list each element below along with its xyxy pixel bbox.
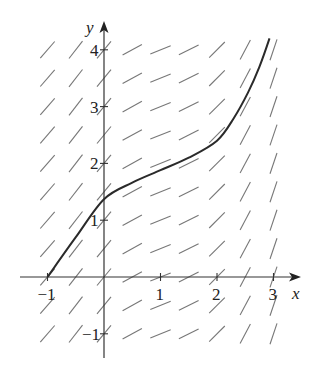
y-tick-label: 2 bbox=[90, 154, 99, 173]
direction-segment bbox=[270, 96, 277, 117]
direction-segment bbox=[69, 98, 83, 115]
direction-segment bbox=[179, 130, 199, 140]
y-tick-label: −1 bbox=[82, 325, 100, 344]
direction-segment bbox=[179, 329, 199, 339]
direction-segment bbox=[150, 216, 170, 224]
y-axis-label: y bbox=[84, 18, 94, 37]
direction-segment bbox=[240, 239, 250, 258]
direction-segment bbox=[69, 41, 83, 58]
direction-segment bbox=[240, 211, 250, 230]
x-axis-label: x bbox=[291, 284, 300, 303]
direction-segment bbox=[123, 187, 142, 198]
direction-segment bbox=[40, 42, 54, 59]
direction-segment bbox=[270, 68, 277, 89]
direction-segment bbox=[123, 215, 142, 226]
direction-segment bbox=[123, 158, 142, 169]
y-tick-label: 4 bbox=[90, 41, 99, 60]
direction-segment bbox=[150, 188, 170, 196]
direction-segment bbox=[270, 210, 277, 231]
direction-segment bbox=[40, 98, 54, 115]
direction-segment bbox=[150, 103, 170, 111]
direction-segment bbox=[40, 240, 54, 257]
direction-segment bbox=[40, 326, 54, 343]
x-tick-label: 1 bbox=[156, 285, 165, 304]
direction-segment bbox=[270, 153, 277, 174]
direction-segment bbox=[240, 154, 250, 173]
direction-segment bbox=[40, 155, 54, 172]
x-tick-label: 2 bbox=[212, 285, 221, 304]
direction-segment bbox=[209, 99, 225, 115]
direction-segment bbox=[240, 125, 250, 144]
direction-segment bbox=[69, 126, 83, 143]
direction-segment bbox=[240, 40, 250, 59]
direction-segment bbox=[69, 212, 83, 229]
direction-segment bbox=[69, 155, 83, 172]
x-tick-label: −1 bbox=[38, 285, 56, 304]
direction-segment bbox=[179, 73, 199, 83]
direction-segment bbox=[240, 324, 250, 343]
direction-segment bbox=[69, 70, 83, 87]
direction-segment bbox=[209, 70, 225, 86]
direction-segment bbox=[123, 329, 142, 340]
direction-segment bbox=[150, 131, 170, 139]
direction-segment bbox=[240, 296, 250, 315]
direction-segment bbox=[123, 101, 142, 112]
direction-segment bbox=[179, 187, 199, 197]
direction-segment bbox=[240, 69, 250, 88]
direction-segment bbox=[40, 70, 54, 87]
direction-segment bbox=[123, 45, 142, 56]
direction-segment bbox=[150, 330, 170, 338]
direction-segment bbox=[150, 46, 170, 54]
direction-segment bbox=[123, 130, 142, 141]
direction-segment bbox=[270, 323, 277, 344]
direction-segment bbox=[179, 215, 199, 225]
direction-segment bbox=[69, 325, 83, 342]
direction-segment bbox=[69, 297, 83, 314]
direction-segment bbox=[179, 244, 199, 254]
axes bbox=[20, 21, 301, 358]
direction-segment bbox=[209, 184, 225, 200]
y-tick-label: 3 bbox=[90, 98, 99, 117]
direction-segment bbox=[123, 243, 142, 254]
direction-segment bbox=[270, 181, 277, 202]
direction-segment bbox=[150, 74, 170, 82]
direction-segment bbox=[40, 212, 54, 229]
direction-segment bbox=[209, 326, 225, 342]
direction-segment bbox=[270, 125, 277, 146]
direction-segment bbox=[179, 102, 199, 112]
direction-segment bbox=[179, 45, 199, 55]
direction-segment bbox=[270, 39, 277, 60]
direction-segment bbox=[123, 73, 142, 84]
direction-segment bbox=[240, 182, 250, 201]
direction-segment bbox=[209, 156, 225, 172]
direction-segment bbox=[179, 301, 199, 311]
direction-segment bbox=[209, 241, 225, 257]
direction-segment bbox=[40, 127, 54, 144]
x-tick-label: 3 bbox=[269, 285, 278, 304]
axis-labels: x y bbox=[84, 18, 300, 303]
slope-field-diagram: −1123−11234 x y bbox=[0, 0, 319, 376]
direction-segment bbox=[123, 300, 142, 311]
direction-segment bbox=[270, 238, 277, 259]
direction-segment bbox=[209, 212, 225, 228]
direction-segment bbox=[40, 184, 54, 201]
direction-segment bbox=[69, 183, 83, 200]
direction-segment bbox=[150, 245, 170, 253]
direction-segment bbox=[209, 42, 225, 58]
